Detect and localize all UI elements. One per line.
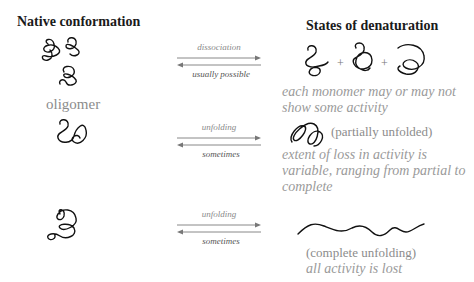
equilibrium-arrows-icon: [175, 135, 263, 149]
sometimes-label: sometimes: [176, 149, 266, 159]
sometimes-label: sometimes: [176, 236, 266, 246]
states-of-denaturation-header: States of denaturation: [306, 18, 438, 34]
complete-unfolding-label: (complete unfolding): [306, 245, 416, 261]
unfolding-label: unfolding: [174, 209, 264, 219]
native-monomer-coil-icon: [50, 118, 90, 148]
oligomer-coil-icon: [38, 36, 100, 96]
equilibrium-arrows-icon: [175, 55, 263, 69]
native-conformation-header: Native conformation: [17, 14, 140, 30]
monomer-coil-icon: [346, 40, 386, 80]
partially-unfolded-label: (partially unfolded): [331, 124, 432, 140]
partial-activity-note: extent of loss in activity is variable, …: [282, 147, 465, 195]
unfolded-chain-icon: [296, 218, 428, 240]
usually-possible-label: usually possible: [176, 69, 266, 79]
dissociation-label: dissociation: [174, 42, 264, 52]
activity-lost-note: all activity is lost: [306, 261, 402, 277]
equilibrium-arrows-icon: [175, 222, 263, 236]
native-monomer-coil-icon: [44, 208, 84, 244]
oligomer-label: oligomer: [46, 96, 100, 113]
plus-sign: +: [381, 56, 388, 71]
plus-sign: +: [337, 56, 344, 71]
monomer-coil-icon: [392, 42, 434, 82]
partially-unfolded-coil-icon: [286, 118, 328, 150]
monomer-activity-note: each monomer may or may not show some ac…: [282, 84, 456, 116]
unfolding-label: unfolding: [174, 122, 264, 132]
monomer-coil-icon: [300, 42, 342, 82]
